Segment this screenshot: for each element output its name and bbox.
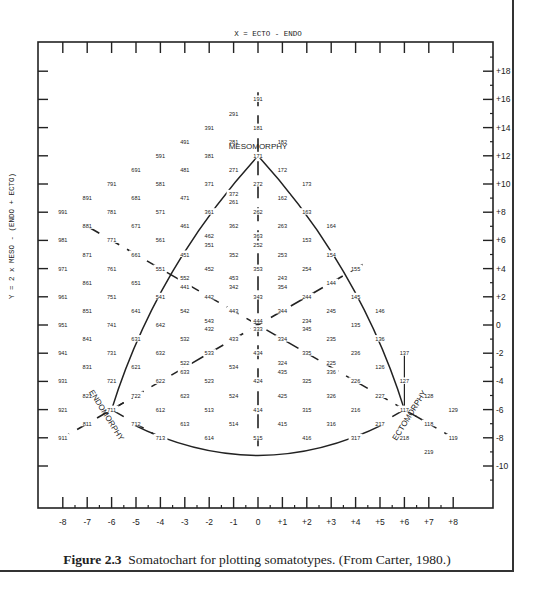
somatotype-point: 623 <box>180 393 189 399</box>
x-tick-label: -1 <box>230 517 238 527</box>
somatotype-point: 252 <box>253 242 262 248</box>
figure-caption-text: Somatochart for plotting somatotypes. (F… <box>128 552 450 567</box>
somatotype-point: 513 <box>205 407 214 413</box>
somatotype-point: 342 <box>229 284 238 290</box>
somatotype-point: 217 <box>375 421 384 427</box>
somatotype-point: 343 <box>253 294 262 300</box>
somatotype-point: 891 <box>83 195 92 201</box>
somatotype-point: 434 <box>253 350 262 356</box>
y-tick-label: +10 <box>496 179 511 189</box>
somatotype-point: 243 <box>278 275 287 281</box>
region-label-mesomorphy: MESOMORPHY <box>229 142 288 151</box>
somatotype-point: 315 <box>302 407 311 413</box>
somatotype-point: 631 <box>131 336 140 342</box>
somatotype-point: 361 <box>205 209 214 215</box>
somatotype-point: 741 <box>107 322 116 328</box>
somatotype-point: 127 <box>400 378 409 384</box>
somatotype-point: 612 <box>156 407 165 413</box>
somatotype-point: 571 <box>156 209 165 215</box>
somatotype-point: 722 <box>131 393 140 399</box>
somatotype-point: 931 <box>58 378 67 384</box>
somatotype-point: 334 <box>278 336 287 342</box>
somatotype-point: 543 <box>205 318 214 324</box>
somatotype-point: 362 <box>229 223 238 229</box>
somatotype-point: 191 <box>253 96 262 102</box>
somatotype-point: 391 <box>205 125 214 131</box>
somatotype-point: 154 <box>327 252 336 258</box>
somatotype-point: 443 <box>229 308 238 314</box>
y-tick-label: 0 <box>496 320 501 330</box>
somatotype-point: 262 <box>253 209 262 215</box>
somatotype-point: 425 <box>278 393 287 399</box>
somatotype-point: 317 <box>351 435 360 441</box>
somatotype-point: 344 <box>278 308 287 314</box>
x-axis-title: X = ECTO - ENDO <box>234 30 302 38</box>
x-tick-label: +3 <box>326 517 336 527</box>
somatotype-point: 462 <box>205 233 214 239</box>
y-tick-label: -8 <box>496 433 504 443</box>
y-tick-label: +6 <box>496 235 506 245</box>
somatotype-point: 551 <box>156 266 165 272</box>
somatotype-point: 861 <box>83 280 92 286</box>
somatotype-point: 761 <box>107 266 116 272</box>
somatotype-point: 171 <box>253 153 262 159</box>
somatotype-point: 941 <box>58 350 67 356</box>
somatotype-point: 316 <box>327 421 336 427</box>
somatotype-point: 145 <box>351 294 360 300</box>
somatotype-point: 271 <box>229 167 238 173</box>
y-tick-label: +14 <box>496 123 511 133</box>
somatotype-point: 129 <box>449 407 458 413</box>
somatotype-point: 981 <box>58 237 67 243</box>
somatotype-point: 871 <box>83 252 92 258</box>
somatotype-point: 471 <box>180 195 189 201</box>
somatotype-point: 272 <box>253 181 262 187</box>
somatotype-point: 153 <box>302 237 311 243</box>
y-tick-label: -4 <box>496 376 504 386</box>
somatotype-point: 414 <box>253 407 262 413</box>
figure-caption: Figure 2.3 Somatochart for plotting soma… <box>0 552 514 568</box>
somatotype-point: 642 <box>156 322 165 328</box>
x-tick-label: -4 <box>157 517 165 527</box>
x-tick-label: +6 <box>400 517 410 527</box>
somatotype-point: 253 <box>278 252 287 258</box>
somatotype-point: 324 <box>278 360 287 366</box>
somatotype-point: 791 <box>107 181 116 187</box>
x-tick-label: -6 <box>108 517 116 527</box>
somatotype-point: 234 <box>302 318 311 324</box>
somatotype-point: 291 <box>229 111 238 117</box>
somatotype-point: 542 <box>180 308 189 314</box>
somatotype-point: 444 <box>253 318 262 324</box>
somatotype-point: 325 <box>302 378 311 384</box>
x-tick-label: 0 <box>256 517 261 527</box>
y-axis-title: Y = 2 x MESO - (ENDO + ECTO) <box>8 173 16 299</box>
somatotype-point: 162 <box>278 195 287 201</box>
somatotype-point: 581 <box>156 181 165 187</box>
somatotype-point: 621 <box>131 364 140 370</box>
somatotype-point: 146 <box>375 308 384 314</box>
somatotype-point: 451 <box>180 252 189 258</box>
somatotype-point: 961 <box>58 294 67 300</box>
somatotype-point: 435 <box>278 369 287 375</box>
y-tick-label: +18 <box>496 66 511 76</box>
somatotype-point: 353 <box>253 266 262 272</box>
somatotype-point: 335 <box>302 350 311 356</box>
somatotype-point: 514 <box>229 421 238 427</box>
somatotype-point: 452 <box>205 266 214 272</box>
somatotype-point: 354 <box>278 284 287 290</box>
somatotype-point: 424 <box>253 378 262 384</box>
x-tick-label: +2 <box>302 517 312 527</box>
somatotype-point: 831 <box>83 364 92 370</box>
somatotype-point: 721 <box>107 378 116 384</box>
somatotype-point: 155 <box>351 266 360 272</box>
somatotype-point: 326 <box>327 393 336 399</box>
somatotype-point: 591 <box>156 153 165 159</box>
somatotype-point: 432 <box>205 326 214 332</box>
somatotype-point: 461 <box>180 223 189 229</box>
somatotype-point: 971 <box>58 266 67 272</box>
somatotype-point: 712 <box>131 421 140 427</box>
somatotype-point: 173 <box>302 181 311 187</box>
somatotype-point: 811 <box>83 421 92 427</box>
somatotype-point: 381 <box>205 153 214 159</box>
y-tick-label: -2 <box>496 348 504 358</box>
somatotype-point: 671 <box>131 223 140 229</box>
